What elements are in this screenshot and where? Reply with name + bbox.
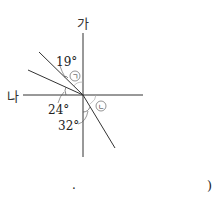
arc-32 bbox=[83, 107, 90, 112]
marker-a: ㄱ bbox=[72, 73, 78, 81]
angle-diagram: 가 나 19° 24° 32° ㄱ ㄴ · ) bbox=[0, 0, 218, 199]
arc-24 bbox=[65, 87, 66, 95]
label-top: 가 bbox=[77, 16, 89, 31]
angle-32: 32° bbox=[58, 119, 79, 133]
arc-a bbox=[74, 82, 83, 86]
footer-paren: ) bbox=[207, 178, 212, 193]
marker-b: ㄴ bbox=[98, 103, 104, 111]
arc-b bbox=[90, 95, 96, 104]
label-left: 나 bbox=[7, 89, 19, 104]
angle-24: 24° bbox=[48, 103, 69, 117]
footer-dot: · bbox=[72, 182, 76, 196]
leader-24 bbox=[58, 92, 64, 103]
angle-19: 19° bbox=[56, 55, 77, 69]
